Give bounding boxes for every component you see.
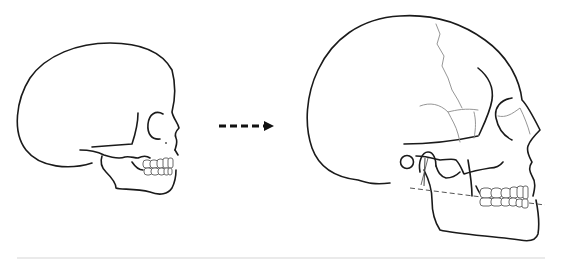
infant-orbit <box>148 112 163 139</box>
growth-arrow-icon <box>219 121 274 131</box>
adult-sutures <box>420 24 530 142</box>
adult-orbit <box>496 98 512 140</box>
adult-skull <box>307 16 545 241</box>
adult-cranium-outline <box>307 16 540 196</box>
adult-mastoid <box>401 156 414 169</box>
adult-teeth <box>480 186 528 208</box>
infant-cranium-outline <box>17 43 179 167</box>
infant-teeth <box>143 158 173 175</box>
infant-skull <box>17 43 179 194</box>
skull-growth-diagram <box>0 0 562 263</box>
